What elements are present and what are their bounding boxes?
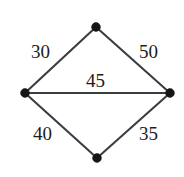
- edge-weight-label-left-right: 45: [86, 71, 105, 90]
- top-vertex: [92, 23, 101, 32]
- edge-top-right: [96, 27, 170, 93]
- edge-weight-label-bottom-right: 35: [139, 124, 158, 143]
- edge-weight-label-top-right: 50: [139, 42, 158, 61]
- left-vertex: [21, 89, 30, 98]
- right-vertex: [166, 89, 175, 98]
- edge-bottom-right: [97, 93, 170, 158]
- edge-weight-label-left-bottom: 40: [33, 124, 52, 143]
- weighted-graph-diagram: 30 50 45 40 35: [0, 0, 184, 177]
- bottom-vertex: [93, 154, 102, 163]
- edge-weight-label-left-top: 30: [31, 42, 50, 61]
